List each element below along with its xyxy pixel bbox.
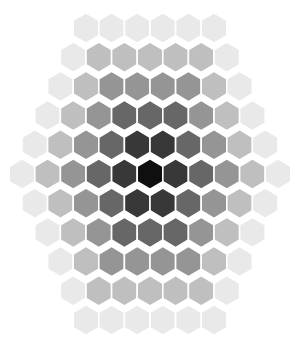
hex-cell [60,159,86,189]
hex-cell [201,71,227,101]
hex-cell [201,305,227,335]
hex-cell [73,130,99,160]
hex-cell [265,159,291,189]
hex-cell [176,188,202,218]
hex-cell [176,246,202,276]
hex-cell [99,305,125,335]
hex-cell [214,276,240,306]
hex-cell [48,71,74,101]
hex-cell [150,71,176,101]
hex-cell [22,130,48,160]
hex-grid-figure [0,0,305,340]
hex-cell [201,130,227,160]
hex-cell [188,159,214,189]
hex-cell [35,159,61,189]
hex-cell [163,217,189,247]
hex-cell [124,188,150,218]
hex-cell [112,100,138,130]
hex-cell [137,100,163,130]
hex-cell [188,276,214,306]
hex-cell [124,130,150,160]
hex-cell [124,13,150,43]
hex-cell [188,42,214,72]
hex-cell [73,71,99,101]
hex-cell [73,246,99,276]
hex-cell [112,42,138,72]
hex-cell [163,42,189,72]
hex-cell [137,42,163,72]
hex-cell [9,159,35,189]
hex-cell [60,276,86,306]
hex-cell [176,13,202,43]
hex-cell [150,13,176,43]
hex-cell [214,42,240,72]
hex-cell [214,217,240,247]
hex-cell [22,188,48,218]
hex-cell [188,100,214,130]
hex-cell [73,188,99,218]
hex-cell [163,276,189,306]
hex-cell [252,188,278,218]
hex-cell [137,276,163,306]
hex-cell [99,246,125,276]
hex-cell [86,100,112,130]
hex-cell [112,217,138,247]
hex-cell [150,246,176,276]
hex-cell [137,217,163,247]
hex-cell [252,130,278,160]
hex-cell [48,188,74,218]
hex-cell [240,159,266,189]
hex-cell [227,130,253,160]
hex-cell [214,159,240,189]
hex-cell [86,217,112,247]
hex-cell [227,71,253,101]
hex-cell [60,42,86,72]
hex-cell [60,100,86,130]
hex-cell [60,217,86,247]
hex-cell [150,305,176,335]
hex-cell [227,246,253,276]
hex-cell [99,71,125,101]
hex-cell [201,188,227,218]
hex-cell [35,100,61,130]
hex-cell [176,305,202,335]
hex-cell [99,13,125,43]
hex-cell [176,71,202,101]
hex-cell [137,159,163,189]
hex-cell [48,246,74,276]
hex-cell [124,246,150,276]
hex-cell [73,13,99,43]
hex-cell [176,130,202,160]
hex-cell [73,305,99,335]
hex-grid-canvas [0,0,305,340]
hex-cell [99,130,125,160]
hex-cell [214,100,240,130]
hex-cell [112,159,138,189]
hex-cell [124,71,150,101]
hex-cell [35,217,61,247]
hex-cell [112,276,138,306]
hex-cell [150,188,176,218]
hex-cell [86,159,112,189]
hex-cell [201,246,227,276]
hex-cell [240,217,266,247]
hex-cell [163,159,189,189]
hex-cell [86,276,112,306]
hex-cell [188,217,214,247]
hex-cell [48,130,74,160]
hex-cell [201,13,227,43]
hex-cell [99,188,125,218]
hex-cell [150,130,176,160]
hex-cell [86,42,112,72]
hex-cell [227,188,253,218]
hex-cell [240,100,266,130]
hex-cell [124,305,150,335]
hex-cell [163,100,189,130]
